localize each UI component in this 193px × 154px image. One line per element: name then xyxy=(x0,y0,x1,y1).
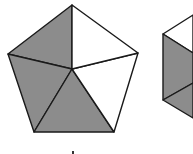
second-shape-figure xyxy=(163,15,193,118)
label-mark xyxy=(72,151,74,154)
figure-canvas xyxy=(0,0,193,154)
pentagon-figure xyxy=(8,5,138,132)
